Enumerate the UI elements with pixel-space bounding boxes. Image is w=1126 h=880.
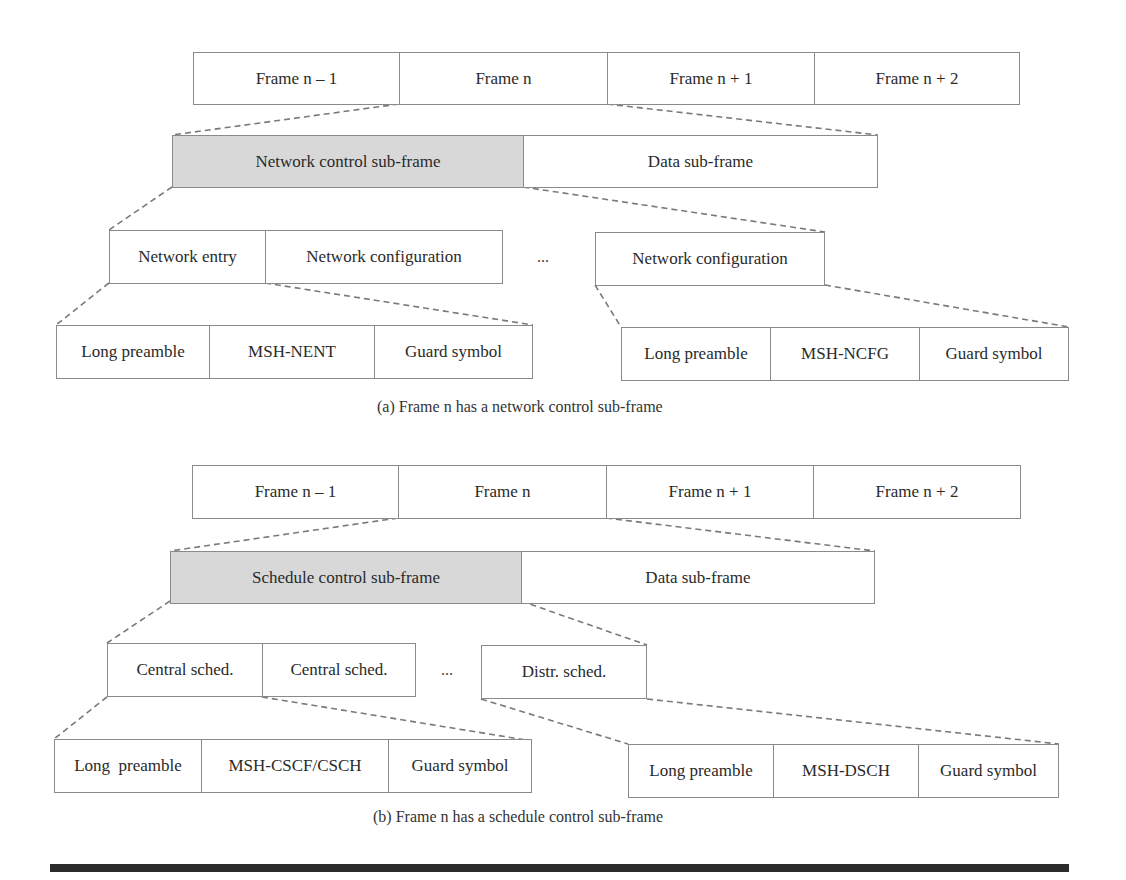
- part-b-mid-left-row: Central sched. Central sched.: [107, 643, 416, 697]
- part-a-subframe-row: Network control sub-frame Data sub-frame: [172, 135, 878, 188]
- long-preamble: Long preamble: [55, 740, 202, 792]
- ellipsis: ...: [537, 248, 549, 266]
- long-preamble: Long preamble: [629, 745, 774, 797]
- msh-nent: MSH-NENT: [210, 326, 375, 378]
- part-b-bottom-right-row: Long preamble MSH-DSCH Guard symbol: [628, 744, 1059, 798]
- network-configuration: Network configuration: [596, 233, 824, 285]
- msh-cscf-csch: MSH-CSCF/CSCH: [202, 740, 389, 792]
- network-control-subframe: Network control sub-frame: [173, 136, 524, 187]
- guard-symbol: Guard symbol: [919, 745, 1058, 797]
- part-a-mid-left-row: Network entry Network configuration: [109, 230, 503, 284]
- ellipsis: ...: [441, 661, 453, 679]
- distr-sched: Distr. sched.: [482, 646, 646, 698]
- msh-dsch: MSH-DSCH: [774, 745, 919, 797]
- long-preamble: Long preamble: [622, 328, 771, 380]
- part-a-frame-row: Frame n – 1 Frame n Frame n + 1 Frame n …: [193, 52, 1020, 105]
- network-entry: Network entry: [110, 231, 266, 283]
- frame-n-minus-1: Frame n – 1: [193, 466, 399, 518]
- data-subframe: Data sub-frame: [522, 552, 874, 603]
- part-b-subframe-row: Schedule control sub-frame Data sub-fram…: [170, 551, 875, 604]
- bottom-rule: [50, 864, 1069, 872]
- data-subframe: Data sub-frame: [524, 136, 877, 187]
- part-a-bottom-left-row: Long preamble MSH-NENT Guard symbol: [56, 325, 533, 379]
- central-sched: Central sched.: [263, 644, 415, 696]
- part-a-mid-right-row: Network configuration: [595, 232, 825, 286]
- frame-n-plus-2: Frame n + 2: [815, 53, 1019, 104]
- guard-symbol: Guard symbol: [375, 326, 532, 378]
- guard-symbol: Guard symbol: [389, 740, 531, 792]
- guard-symbol: Guard symbol: [920, 328, 1068, 380]
- part-a-bottom-right-row: Long preamble MSH-NCFG Guard symbol: [621, 327, 1069, 381]
- frame-n: Frame n: [400, 53, 608, 104]
- frame-n-minus-1: Frame n – 1: [194, 53, 400, 104]
- network-configuration: Network configuration: [266, 231, 502, 283]
- frame-n: Frame n: [399, 466, 607, 518]
- caption-a: (a) Frame n has a network control sub-fr…: [377, 398, 663, 416]
- part-b-bottom-left-row: Long preamble MSH-CSCF/CSCH Guard symbol: [54, 739, 532, 793]
- schedule-control-subframe: Schedule control sub-frame: [171, 552, 522, 603]
- part-b-frame-row: Frame n – 1 Frame n Frame n + 1 Frame n …: [192, 465, 1021, 519]
- frame-n-plus-2: Frame n + 2: [814, 466, 1020, 518]
- part-b-mid-right-row: Distr. sched.: [481, 645, 647, 699]
- msh-ncfg: MSH-NCFG: [771, 328, 920, 380]
- central-sched: Central sched.: [108, 644, 263, 696]
- frame-n-plus-1: Frame n + 1: [608, 53, 815, 104]
- long-preamble: Long preamble: [57, 326, 210, 378]
- caption-b: (b) Frame n has a schedule control sub-f…: [373, 808, 663, 826]
- frame-n-plus-1: Frame n + 1: [607, 466, 814, 518]
